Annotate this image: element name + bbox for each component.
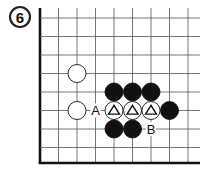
black-stone [105, 120, 123, 138]
white-stone-marked [124, 102, 142, 120]
white-stone [68, 102, 86, 120]
white-stone-marked [142, 102, 160, 120]
go-board-diagram: 6 AB [0, 0, 210, 169]
stones-layer [68, 65, 179, 139]
black-stone [142, 83, 160, 101]
point-label-a: A [91, 103, 100, 118]
white-stone-marked [105, 102, 123, 120]
black-stone [124, 83, 142, 101]
problem-number-badge: 6 [10, 7, 30, 27]
white-stone [68, 65, 86, 83]
point-label-b: B [147, 122, 156, 137]
black-stone [105, 83, 123, 101]
black-stone [161, 102, 179, 120]
black-stone [124, 120, 142, 138]
problem-number: 6 [16, 9, 24, 26]
